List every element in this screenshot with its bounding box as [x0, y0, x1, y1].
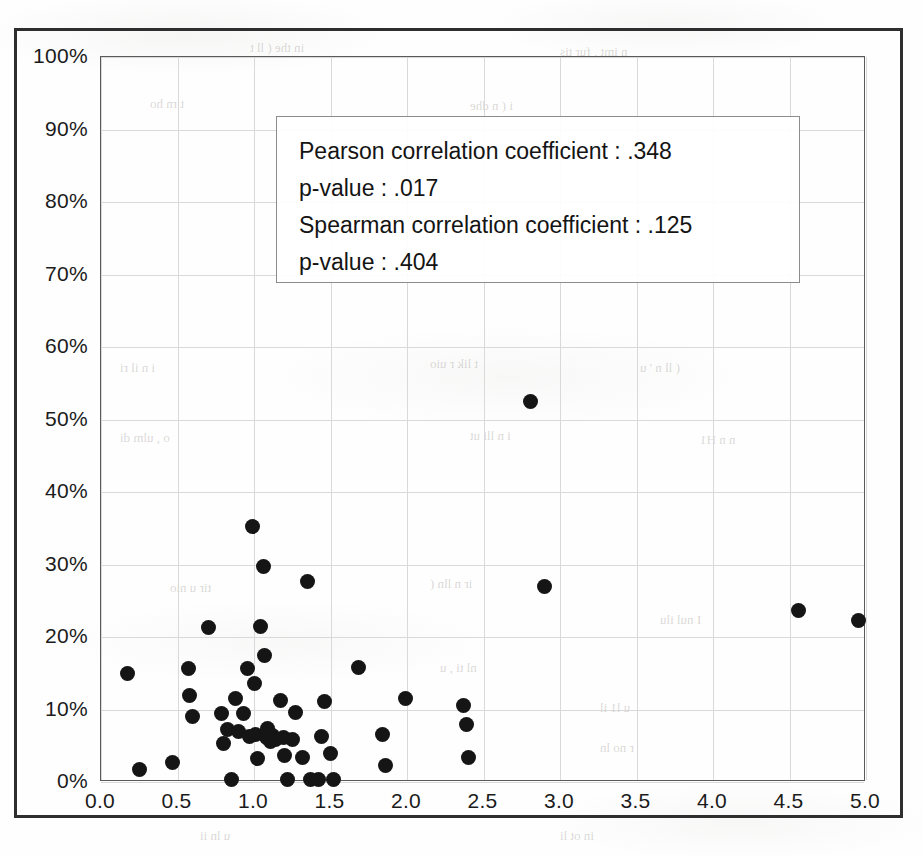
data-point — [288, 705, 303, 720]
data-point — [257, 648, 272, 663]
y-tick-label-7: 70% — [45, 262, 88, 286]
data-point — [277, 748, 292, 763]
data-point — [461, 750, 476, 765]
data-point — [456, 698, 471, 713]
data-point — [256, 559, 271, 574]
y-tick-label-5: 50% — [45, 407, 88, 431]
data-point — [378, 758, 393, 773]
data-point — [245, 519, 260, 534]
y-tick-label-10: 100% — [33, 44, 88, 68]
data-point — [181, 661, 196, 676]
data-point — [250, 751, 265, 766]
data-point — [201, 620, 216, 635]
annotation-line-spearman-rho: Spearman correlation coefficient : .125 — [299, 207, 799, 244]
data-point — [132, 762, 147, 777]
ghost-text-17: u ln ii — [200, 828, 230, 844]
gridline-horizontal-4 — [101, 492, 864, 493]
gridline-horizontal-6 — [101, 347, 864, 348]
data-point — [851, 613, 866, 628]
y-tick-label-3: 30% — [45, 552, 88, 576]
gridline-vertical-1 — [178, 57, 179, 780]
x-axis-tick-labels: 0.00.51.01.52.02.53.03.54.04.55.0 — [100, 789, 865, 823]
scatter-plot-figure: in the ( ll tn imt , fur tist rn hoi ( n… — [0, 0, 923, 856]
annotation-line-spearman-p: p-value : .404 — [299, 244, 799, 281]
data-point — [317, 694, 332, 709]
data-point — [791, 603, 806, 618]
data-point — [228, 691, 243, 706]
data-point — [375, 727, 390, 742]
data-point — [273, 693, 288, 708]
data-point — [537, 579, 552, 594]
data-point — [323, 746, 338, 761]
y-tick-label-1: 10% — [45, 697, 88, 721]
y-axis-tick-labels: 0%10%20%30%40%50%60%70%80%90%100% — [0, 56, 88, 781]
x-tick-label-9: 4.5 — [773, 789, 803, 813]
gridline-horizontal-10 — [101, 57, 864, 58]
gridline-vertical-10 — [866, 57, 867, 780]
x-tick-label-0: 0.0 — [85, 789, 115, 813]
data-point — [311, 772, 326, 787]
y-tick-label-0: 0% — [57, 769, 88, 793]
data-point — [300, 574, 315, 589]
x-tick-label-7: 3.5 — [620, 789, 650, 813]
gridline-horizontal-0 — [101, 782, 864, 783]
data-point — [236, 706, 251, 721]
gridline-horizontal-2 — [101, 637, 864, 638]
data-point — [182, 688, 197, 703]
ghost-text-16: in ot li — [560, 828, 594, 844]
y-tick-label-6: 60% — [45, 334, 88, 358]
statistics-annotation-box: Pearson correlation coefficient : .348 p… — [276, 116, 800, 283]
y-tick-label-9: 90% — [45, 117, 88, 141]
x-tick-label-8: 4.0 — [697, 789, 727, 813]
data-point — [351, 660, 366, 675]
y-tick-label-4: 40% — [45, 479, 88, 503]
data-point — [523, 394, 538, 409]
y-tick-label-8: 80% — [45, 189, 88, 213]
x-tick-label-10: 5.0 — [850, 789, 880, 813]
x-tick-label-5: 2.5 — [467, 789, 497, 813]
x-tick-label-4: 2.0 — [391, 789, 421, 813]
data-point — [253, 619, 268, 634]
data-point — [120, 666, 135, 681]
data-point — [398, 691, 413, 706]
data-point — [314, 729, 329, 744]
data-point — [216, 736, 231, 751]
gridline-horizontal-5 — [101, 420, 864, 421]
x-tick-label-1: 0.5 — [161, 789, 191, 813]
data-point — [214, 706, 229, 721]
y-tick-label-2: 20% — [45, 624, 88, 648]
x-tick-label-3: 1.5 — [314, 789, 344, 813]
gridline-horizontal-3 — [101, 565, 864, 566]
x-tick-label-6: 3.0 — [544, 789, 574, 813]
data-point — [247, 676, 262, 691]
annotation-line-pearson-p: p-value : .017 — [299, 170, 799, 207]
data-point — [185, 709, 200, 724]
data-point — [459, 717, 474, 732]
gridline-vertical-0 — [101, 57, 102, 780]
data-point — [285, 732, 300, 747]
data-point — [224, 772, 239, 787]
x-tick-label-2: 1.0 — [238, 789, 268, 813]
data-point — [295, 750, 310, 765]
annotation-line-pearson-r: Pearson correlation coefficient : .348 — [299, 133, 799, 170]
